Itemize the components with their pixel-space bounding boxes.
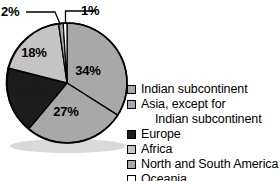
pie-chart-svg: 34% 27% 18% 18% xyxy=(0,0,136,181)
legend-swatch-europe xyxy=(127,130,136,139)
legend-label-oceania: Oceania xyxy=(141,172,187,181)
pie-chart: 34% 27% 18% 18% 2% 1% xyxy=(0,0,136,181)
leader-line-2-percent xyxy=(26,12,61,25)
legend-item-asia-continuation: Indian subcontinent xyxy=(127,112,280,127)
legend-swatch-indian-subcontinent xyxy=(127,85,136,94)
slice-label-18-europe: 18% xyxy=(18,82,44,97)
slice-label-27: 27% xyxy=(53,104,79,119)
legend-swatch-asia-except-indian-subcontinent xyxy=(127,100,136,109)
legend-item-europe[interactable]: Europe xyxy=(127,127,280,142)
legend-item-indian-subcontinent[interactable]: Indian subcontinent xyxy=(127,82,280,97)
slice-label-34: 34% xyxy=(75,63,101,78)
legend-label-europe: Europe xyxy=(141,127,181,142)
legend-swatch-north-and-south-america xyxy=(127,160,136,169)
slice-label-18-africa: 18% xyxy=(21,45,47,60)
legend-label-africa: Africa xyxy=(141,142,172,157)
legend-item-oceania[interactable]: Oceania xyxy=(127,172,280,181)
callout-label-2-percent: 2% xyxy=(1,4,19,19)
legend-label-indian-subcontinent: Indian subcontinent xyxy=(141,82,248,97)
legend-swatch-oceania xyxy=(127,175,136,181)
legend-item-asia-except-indian-subcontinent[interactable]: Asia, except for xyxy=(127,97,280,112)
legend-swatch-africa xyxy=(127,145,136,154)
legend-item-north-and-south-america[interactable]: North and South America xyxy=(127,157,280,172)
legend-label-asia-continuation: Indian subcontinent xyxy=(155,112,262,127)
legend-label-north-and-south-america: North and South America xyxy=(141,157,278,172)
chart-legend: Indian subcontinent Asia, except for Ind… xyxy=(127,82,280,181)
legend-item-africa[interactable]: Africa xyxy=(127,142,280,157)
callout-label-1-percent: 1% xyxy=(81,3,99,18)
legend-label-asia-except-indian-subcontinent: Asia, except for xyxy=(141,97,226,112)
chart-page: 34% 27% 18% 18% 2% 1% Indian subcontinen… xyxy=(0,0,280,181)
